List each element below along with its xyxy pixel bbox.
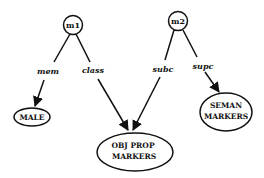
edge-label-class: class: [82, 65, 105, 75]
edge-label-mem: mem: [37, 66, 59, 76]
node-m2-label: m2: [171, 16, 185, 26]
node-obj-prop-markers: OBJ PROP MARKERS: [97, 133, 173, 171]
edge-m1-class-objprop: [76, 34, 128, 130]
edge-m2-subc-objprop: [133, 30, 174, 130]
node-obj-prop-label-line2: MARKERS: [112, 152, 156, 161]
node-m1: m1: [64, 16, 83, 35]
semantic-network-diagram: mem class subc supc m1 m2 MALE OBJ PROP …: [0, 0, 264, 178]
node-m1-label: m1: [66, 20, 80, 30]
node-m2: m2: [169, 12, 188, 31]
node-male-label: MALE: [19, 113, 44, 122]
node-seman-label-line1: SEMAN: [210, 101, 242, 110]
node-male: MALE: [14, 108, 50, 126]
edge-label-subc: subc: [153, 64, 174, 74]
edge-label-supc: supc: [193, 61, 214, 71]
node-obj-prop-label-line1: OBJ PROP: [111, 141, 154, 150]
node-seman-label-line2: MARKERS: [204, 112, 248, 121]
node-seman-markers: SEMAN MARKERS: [200, 93, 252, 131]
